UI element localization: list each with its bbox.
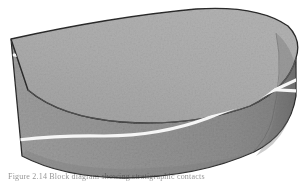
- figure-caption: Figure 2.14 Block diagram showing strati…: [8, 172, 298, 182]
- block-diagram-illustration: [0, 0, 304, 182]
- figure-block-diagram: Figure 2.14 Block diagram showing strati…: [0, 0, 304, 182]
